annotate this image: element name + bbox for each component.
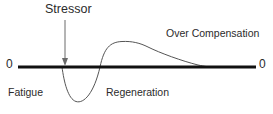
stressor-arrow-head xyxy=(62,58,68,66)
regeneration-label: Regeneration xyxy=(106,87,169,98)
zero-label-left: 0 xyxy=(6,58,13,70)
stressor-label: Stressor xyxy=(45,3,92,16)
over-compensation-label: Over Compensation xyxy=(166,28,259,39)
supercompensation-diagram: Stressor Over Compensation 0 0 Fatigue R… xyxy=(0,0,273,114)
zero-label-right: 0 xyxy=(259,58,266,70)
fatigue-label: Fatigue xyxy=(8,87,43,98)
